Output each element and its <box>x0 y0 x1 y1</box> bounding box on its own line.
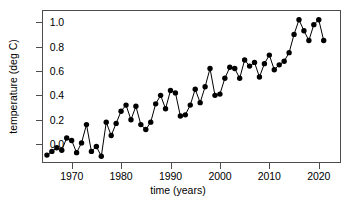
y-axis-tick-label: 0.8 <box>30 42 64 53</box>
data-point-marker <box>163 106 168 111</box>
y-axis-tick-label: 0.4 <box>30 90 64 101</box>
data-point-marker <box>123 102 128 107</box>
chart-figure: 0.00.20.40.60.81.0 197019801990200020102… <box>0 0 356 203</box>
y-axis-tick-label: 0.2 <box>30 115 64 126</box>
data-point-marker <box>113 121 118 126</box>
data-point-marker <box>138 122 143 127</box>
x-axis-tick-label: 1990 <box>151 171 191 182</box>
y-axis-title: temperature (deg C) <box>8 12 19 162</box>
x-axis-tick-label: 2000 <box>200 171 240 182</box>
data-point-marker <box>242 57 247 62</box>
data-point-marker <box>74 150 79 155</box>
data-point-marker <box>118 108 123 113</box>
data-point-marker <box>252 60 257 65</box>
x-axis-tick-label: 1980 <box>101 171 141 182</box>
data-point-marker <box>286 50 291 55</box>
data-point-marker <box>237 76 242 81</box>
data-point-marker <box>69 138 74 143</box>
temperature-series <box>42 10 341 163</box>
data-point-marker <box>306 38 311 43</box>
data-point-marker <box>316 17 321 22</box>
data-point-marker <box>311 22 316 27</box>
x-axis-title: time (years) <box>0 185 356 196</box>
data-point-marker <box>188 102 193 107</box>
data-point-marker <box>272 67 277 72</box>
data-point-marker <box>44 152 49 157</box>
y-axis-tick-label: 0.6 <box>30 66 64 77</box>
data-point-marker <box>257 74 262 79</box>
data-point-marker <box>193 87 198 92</box>
data-point-marker <box>148 119 153 124</box>
data-point-marker <box>202 84 207 89</box>
data-point-marker <box>108 133 113 138</box>
y-axis-tick-label: 0.0 <box>30 139 64 150</box>
data-point-marker <box>197 100 202 105</box>
data-point-marker <box>99 154 104 159</box>
series-line <box>47 20 324 157</box>
data-point-marker <box>207 66 212 71</box>
data-point-marker <box>168 88 173 93</box>
data-point-marker <box>153 101 158 106</box>
x-axis-tick <box>269 163 270 169</box>
data-point-marker <box>133 104 138 109</box>
data-point-marker <box>173 90 178 95</box>
data-point-marker <box>222 76 227 81</box>
data-point-marker <box>277 62 282 67</box>
data-point-marker <box>267 52 272 57</box>
data-point-marker <box>104 119 109 124</box>
data-point-marker <box>94 144 99 149</box>
data-point-marker <box>79 140 84 145</box>
data-point-marker <box>183 112 188 117</box>
data-point-marker <box>301 28 306 33</box>
y-axis-tick-label: 1.0 <box>30 17 64 28</box>
data-point-marker <box>212 93 217 98</box>
x-axis-tick-label: 1970 <box>52 171 92 182</box>
data-point-marker <box>143 127 148 132</box>
data-point-marker <box>178 113 183 118</box>
data-point-marker <box>158 93 163 98</box>
x-axis-tick <box>121 163 122 169</box>
x-axis-tick <box>171 163 172 169</box>
data-point-marker <box>321 38 326 43</box>
data-point-marker <box>128 117 133 122</box>
x-axis-tick <box>220 163 221 169</box>
data-point-marker <box>84 122 89 127</box>
data-point-marker <box>64 135 69 140</box>
data-point-marker <box>247 63 252 68</box>
x-axis-tick <box>319 163 320 169</box>
x-axis-tick-label: 2010 <box>249 171 289 182</box>
data-point-marker <box>262 61 267 66</box>
data-point-marker <box>296 17 301 22</box>
data-point-marker <box>227 65 232 70</box>
data-point-marker <box>232 66 237 71</box>
data-point-marker <box>291 32 296 37</box>
x-axis-tick-label: 2020 <box>299 171 339 182</box>
data-point-marker <box>89 149 94 154</box>
data-point-marker <box>281 59 286 64</box>
data-point-marker <box>217 91 222 96</box>
x-axis-tick <box>72 163 73 169</box>
